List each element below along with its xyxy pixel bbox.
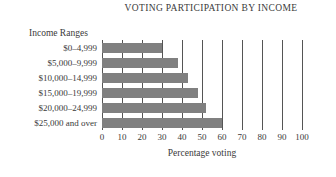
- x-tick-label: 20: [138, 132, 147, 142]
- x-tick-label: 0: [100, 132, 105, 142]
- bar[interactable]: [102, 73, 188, 83]
- category-label: $20,000–24,999: [0, 100, 100, 115]
- x-tick-label: 80: [258, 132, 267, 142]
- bar[interactable]: [102, 43, 162, 53]
- category-label-list: $0–4,999$5,000–9,999$10,000–14,999$15,00…: [0, 40, 100, 130]
- bars-layer: [102, 40, 302, 130]
- bar-slot: [102, 70, 302, 85]
- x-axis-tick-labels: 0102030405060708090100: [102, 132, 302, 144]
- category-label: $15,000–19,999: [0, 85, 100, 100]
- chart-figure: VOTING PARTICIPATION BY INCOME Income Ra…: [0, 0, 336, 177]
- category-label: $5,000–9,999: [0, 55, 100, 70]
- x-tick-label: 100: [295, 132, 309, 142]
- x-tick-label: 60: [218, 132, 227, 142]
- x-tick-label: 10: [118, 132, 127, 142]
- bar-slot: [102, 85, 302, 100]
- bar-slot: [102, 115, 302, 130]
- x-tick-label: 90: [278, 132, 287, 142]
- bar-slot: [102, 40, 302, 55]
- x-tick-label: 70: [238, 132, 247, 142]
- x-tick-label: 50: [198, 132, 207, 142]
- x-tick-label: 40: [178, 132, 187, 142]
- category-label: $25,000 and over: [0, 115, 100, 130]
- chart-title: VOTING PARTICIPATION BY INCOME: [100, 3, 322, 13]
- bar[interactable]: [102, 88, 198, 98]
- category-label: $0–4,999: [0, 40, 100, 55]
- x-axis-title: Percentage voting: [102, 148, 302, 158]
- bar[interactable]: [102, 103, 206, 113]
- bar-slot: [102, 100, 302, 115]
- gridline: [302, 40, 303, 130]
- x-tick-label: 30: [158, 132, 167, 142]
- category-label: $10,000–14,999: [0, 70, 100, 85]
- bar[interactable]: [102, 58, 178, 68]
- y-axis-title: Income Ranges: [29, 28, 88, 38]
- bar[interactable]: [102, 118, 222, 128]
- plot-area: [102, 40, 302, 130]
- bar-slot: [102, 55, 302, 70]
